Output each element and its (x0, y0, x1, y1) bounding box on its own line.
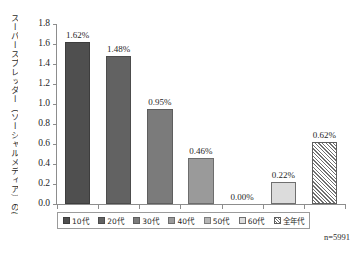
legend-swatch-icon (133, 217, 140, 224)
legend-item[interactable]: 10代 (63, 215, 89, 226)
bar-value-label: 1.62% (57, 30, 98, 40)
legend-label: 50代 (213, 215, 230, 226)
y-axis-tick-label: 1.2 (38, 78, 50, 88)
y-axis-tick-label: 0.8 (38, 118, 50, 128)
bar-value-label: 0.00% (222, 192, 263, 202)
bar (188, 158, 214, 204)
legend-swatch-icon (168, 217, 175, 224)
bar-value-label: 0.46% (180, 146, 221, 156)
legend-swatch-icon (98, 217, 105, 224)
x-axis-tick-mark (222, 205, 223, 209)
chart-figure: スーパースプレッダー（ソーシャルメディア）の割合（％） 0.00.20.40.6… (0, 0, 356, 263)
bar-value-label: 0.22% (263, 170, 304, 180)
y-axis-tick-label: 1.0 (38, 98, 50, 108)
x-axis-tick-mark (345, 205, 346, 209)
legend-swatch-icon (204, 217, 211, 224)
x-axis-tick-mark (263, 205, 264, 209)
bar (106, 56, 132, 204)
bar (312, 142, 338, 204)
x-axis-line (56, 204, 346, 205)
bar (271, 182, 297, 204)
legend-item[interactable]: 40代 (168, 215, 194, 226)
legend-label: 10代 (72, 215, 89, 226)
legend-label: 20代 (107, 215, 124, 226)
legend-label: 全年代 (283, 215, 304, 226)
legend-label: 40代 (177, 215, 194, 226)
legend-swatch-icon (63, 217, 70, 224)
bar-value-label: 0.62% (304, 130, 345, 140)
y-axis-tick-label: 1.8 (38, 18, 50, 28)
bar-value-label: 0.95% (139, 97, 180, 107)
y-axis-tick-label: 0.0 (38, 198, 50, 208)
x-axis-tick-mark (98, 205, 99, 209)
bar (65, 42, 91, 204)
legend-item[interactable]: 全年代 (274, 215, 304, 226)
chart-legend: 10代20代30代40代50代60代全年代 (57, 212, 310, 229)
x-axis-tick-mark (57, 205, 58, 209)
sample-size-note: n=5991 (324, 232, 350, 242)
legend-swatch-icon (239, 217, 246, 224)
bar (147, 109, 173, 204)
y-axis-tick-label: 0.6 (38, 138, 50, 148)
legend-swatch-icon (274, 217, 281, 224)
legend-item[interactable]: 20代 (98, 215, 124, 226)
y-axis-tick-label: 1.4 (38, 58, 50, 68)
legend-item[interactable]: 50代 (204, 215, 230, 226)
y-axis-title: スーパースプレッダー（ソーシャルメディア）の割合（％） (2, 14, 18, 214)
legend-item[interactable]: 60代 (239, 215, 265, 226)
bar-value-label: 1.48% (98, 44, 139, 54)
y-axis-tick-label: 0.2 (38, 178, 50, 188)
x-axis-tick-mark (139, 205, 140, 209)
x-axis-tick-mark (180, 205, 181, 209)
plot-area: 1.62%1.48%0.95%0.46%0.00%0.22%0.62% (57, 24, 345, 204)
y-axis-tick-label: 0.4 (38, 158, 50, 168)
y-axis-tick-label: 1.6 (38, 38, 50, 48)
legend-item[interactable]: 30代 (133, 215, 159, 226)
x-axis-tick-mark (304, 205, 305, 209)
legend-label: 30代 (142, 215, 159, 226)
legend-label: 60代 (248, 215, 265, 226)
